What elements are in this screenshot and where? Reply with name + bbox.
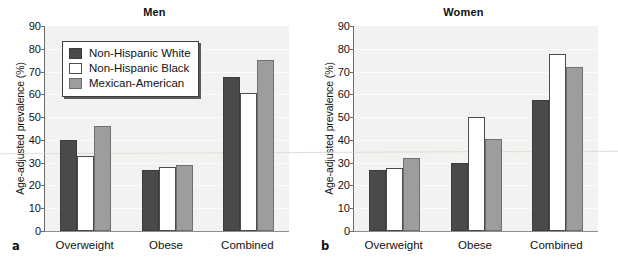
y-tick-label: 80 (29, 43, 41, 54)
panel-women: WomenAge-adjusted prevalence (%)Overweig… (309, 0, 618, 270)
y-tick-label: 10 (29, 203, 41, 214)
bar (369, 170, 386, 232)
y-tick-label: 30 (338, 157, 350, 168)
panel-letter: b (321, 239, 329, 253)
bar (77, 156, 94, 231)
bar (566, 67, 583, 231)
y-tick-label: 40 (29, 134, 41, 145)
x-category-label: Combined (530, 239, 582, 251)
bar (485, 139, 502, 231)
y-tick-mark (41, 231, 45, 232)
bar (142, 170, 159, 232)
legend-label: Non-Hispanic White (89, 48, 191, 60)
bar (549, 54, 566, 231)
x-category-label: Obese (149, 239, 183, 251)
y-tick-label: 90 (338, 21, 350, 32)
panel-men: MenAge-adjusted prevalence (%)Overweight… (0, 0, 309, 270)
bar (468, 117, 485, 231)
bar (159, 167, 176, 231)
y-tick-label: 60 (29, 89, 41, 100)
bar (257, 60, 274, 231)
figure-root: MenAge-adjusted prevalence (%)Overweight… (0, 0, 618, 270)
legend-swatch (69, 78, 82, 89)
legend-label: Mexican-American (89, 78, 184, 90)
bars-layer (354, 26, 598, 231)
legend-item: Non-Hispanic White (69, 46, 191, 61)
y-tick-label: 40 (338, 134, 350, 145)
x-category-label: Overweight (365, 239, 423, 251)
legend: Non-Hispanic WhiteNon-Hispanic BlackMexi… (62, 41, 199, 97)
y-axis-label: Age-adjusted prevalence (%) (14, 26, 26, 231)
y-tick-label: 20 (338, 180, 350, 191)
y-tick-label: 30 (29, 157, 41, 168)
y-tick-label: 70 (338, 66, 350, 77)
y-axis-label: Age-adjusted prevalence (%) (323, 26, 335, 231)
bar (451, 163, 468, 231)
legend-item: Non-Hispanic Black (69, 61, 191, 76)
y-tick-label: 80 (338, 43, 350, 54)
bar (223, 77, 240, 231)
bar (240, 93, 257, 231)
legend-swatch (69, 48, 82, 59)
y-tick-label: 20 (29, 180, 41, 191)
panel-title: Women (309, 6, 618, 18)
bar (176, 165, 193, 231)
panel-title: Men (0, 6, 309, 18)
legend-label: Non-Hispanic Black (89, 63, 189, 75)
bar (403, 158, 420, 231)
y-tick-label: 60 (338, 89, 350, 100)
legend-swatch (69, 63, 82, 74)
x-category-label: Combined (221, 239, 273, 251)
x-category-label: Obese (458, 239, 492, 251)
y-tick-label: 10 (338, 203, 350, 214)
y-tick-label: 70 (29, 66, 41, 77)
bar (386, 168, 403, 231)
bar (532, 100, 549, 231)
panel-letter: a (12, 239, 20, 253)
y-tick-label: 90 (29, 21, 41, 32)
legend-item: Mexican-American (69, 76, 191, 91)
bar (94, 126, 111, 231)
y-tick-label: 50 (29, 112, 41, 123)
plot-area: 0102030405060708090 (353, 26, 598, 232)
bar (60, 140, 77, 231)
x-category-label: Overweight (56, 239, 114, 251)
y-tick-label: 50 (338, 112, 350, 123)
y-tick-mark (350, 231, 354, 232)
